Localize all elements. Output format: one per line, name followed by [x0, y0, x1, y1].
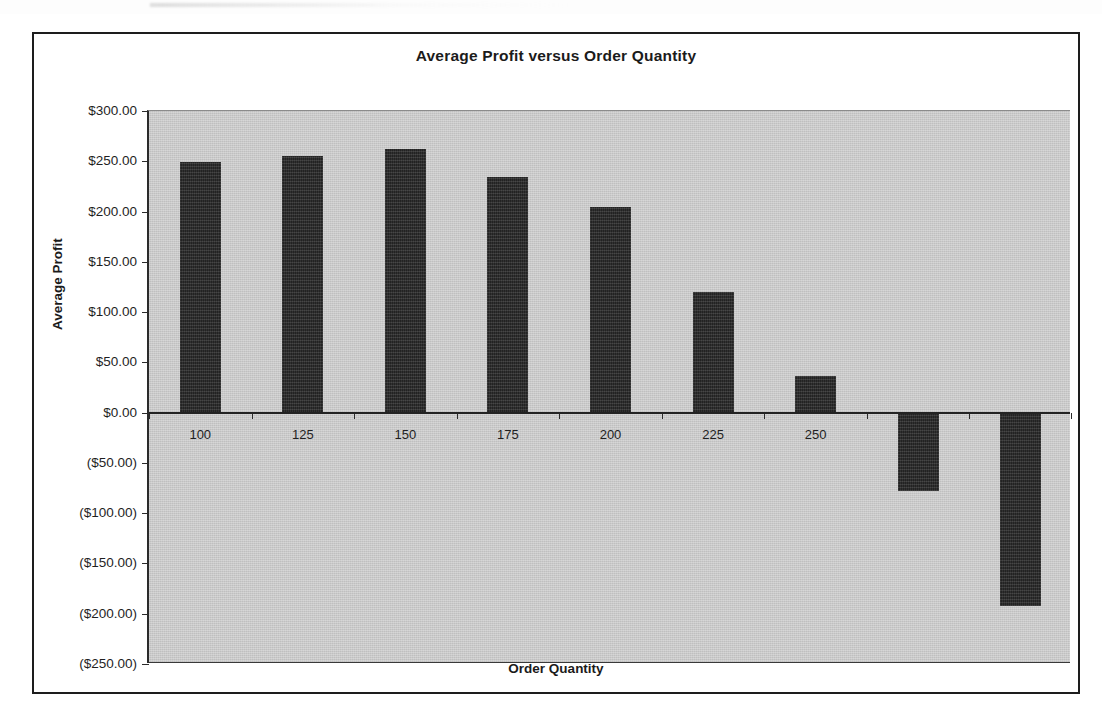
x-axis-tick-label: 250 [805, 427, 827, 442]
y-axis-tick [142, 262, 149, 263]
x-axis-tick-label: 175 [497, 427, 519, 442]
y-axis-tick [142, 212, 149, 213]
y-axis-tick-labels: $300.00$250.00$200.00$150.00$100.00$50.0… [34, 110, 137, 663]
scan-smudge [150, 3, 570, 7]
y-axis-tick-label: ($200.00) [79, 605, 137, 620]
y-axis-tick-label: $150.00 [88, 253, 137, 268]
bar [590, 207, 631, 413]
bar [898, 413, 939, 491]
y-axis-tick-label: ($100.00) [79, 505, 137, 520]
x-axis-tick-label: 200 [600, 427, 622, 442]
x-axis-title: Order Quantity [34, 661, 1078, 676]
chart-title: Average Profit versus Order Quantity [34, 47, 1078, 65]
bar [487, 177, 528, 412]
y-axis-tick [142, 312, 149, 313]
x-axis-tick-label: 225 [702, 427, 724, 442]
y-axis-tick-label: $0.00 [103, 404, 137, 419]
y-axis-tick [142, 362, 149, 363]
y-axis-tick-label: $100.00 [88, 304, 137, 319]
scan-artifact [0, 0, 1102, 14]
bar [385, 149, 426, 412]
y-axis-tick [142, 161, 149, 162]
x-axis-tick-label: 100 [189, 427, 211, 442]
y-axis-tick [142, 413, 149, 414]
y-axis-tick [142, 614, 149, 615]
bar [180, 162, 221, 412]
bar [1000, 413, 1041, 606]
bar [282, 156, 323, 412]
y-axis-tick-label: $250.00 [88, 153, 137, 168]
y-axis-tick [142, 111, 149, 112]
bar [693, 292, 734, 413]
y-axis-tick-label: ($50.00) [87, 454, 137, 469]
plot-area: 100125150175200225250275300 [147, 110, 1070, 663]
chart-frame: Average Profit versus Order Quantity Ave… [32, 32, 1080, 694]
y-axis-tick-label: $50.00 [96, 354, 137, 369]
y-axis-tick [142, 513, 149, 514]
x-axis-tick-label: 125 [292, 427, 314, 442]
y-axis-tick-label: $200.00 [88, 203, 137, 218]
y-axis-tick-label: $300.00 [88, 103, 137, 118]
y-axis-tick [142, 563, 149, 564]
zero-baseline [149, 412, 1070, 414]
x-axis-tick [1071, 413, 1072, 419]
y-axis-tick [142, 463, 149, 464]
x-axis-tick-label: 150 [395, 427, 417, 442]
y-axis-tick-label: ($150.00) [79, 555, 137, 570]
bar [795, 376, 836, 412]
